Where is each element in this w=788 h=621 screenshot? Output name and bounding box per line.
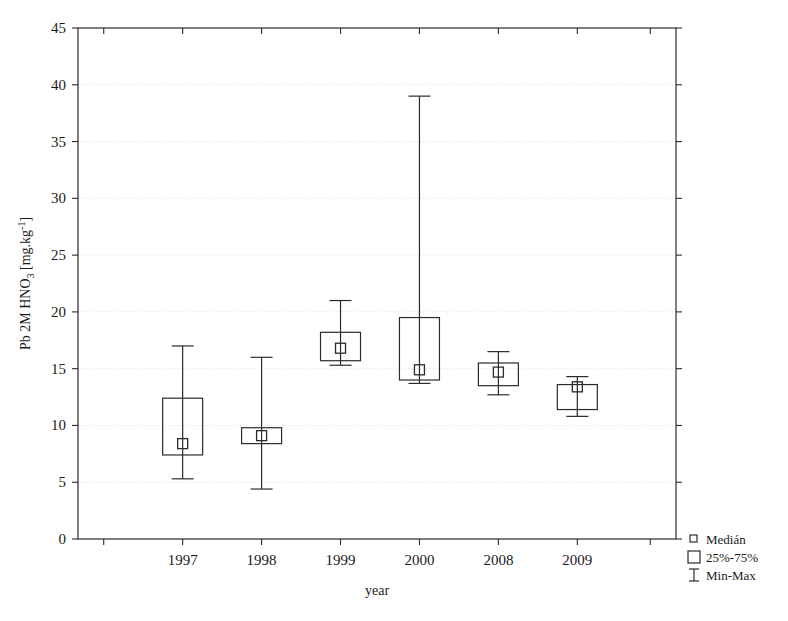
legend: Medián25%-75%Min-Max	[688, 532, 758, 583]
x-tick-label: 1997	[168, 552, 199, 568]
box-plot-1999	[321, 301, 361, 366]
median-glyph-icon	[690, 535, 697, 542]
box-plot-2000	[399, 96, 439, 383]
y-tick-label: 0	[59, 531, 67, 547]
y-gridlines: 051015202530354045	[51, 20, 682, 547]
x-axis: 199719981999200020082009	[104, 28, 651, 568]
y-tick-label: 20	[51, 304, 66, 320]
box-plot-1998	[242, 357, 282, 489]
legend-item-2: 25%-75%	[688, 550, 758, 565]
plot-frame	[78, 28, 676, 539]
x-tick-label: 1999	[326, 552, 356, 568]
y-axis-title: Pb 2M HNO3 [mg.kg-1]	[16, 217, 36, 350]
x-tick-label: 2000	[404, 552, 434, 568]
y-tick-label: 10	[51, 417, 66, 433]
y-tick-label: 30	[51, 190, 66, 206]
y-tick-label: 5	[59, 474, 67, 490]
legend-item-3: Min-Max	[689, 568, 756, 583]
x-tick-label: 2009	[562, 552, 592, 568]
y-tick-label: 35	[51, 134, 66, 150]
iqr-glyph-icon	[688, 551, 700, 563]
y-tick-label: 40	[51, 77, 66, 93]
y-tick-label: 45	[51, 20, 66, 36]
y-tick-label: 25	[51, 247, 66, 263]
legend-label: 25%-75%	[706, 550, 758, 565]
x-tick-label: 2008	[483, 552, 513, 568]
x-axis-title: year	[365, 583, 389, 598]
legend-label: Min-Max	[706, 568, 756, 583]
box-plot-1997	[163, 346, 203, 479]
legend-item-1: Medián	[690, 532, 746, 547]
box-plot-2009	[557, 377, 597, 417]
boxplot-chart: 0510152025303540451997199819992000200820…	[0, 0, 788, 621]
chart-canvas: 0510152025303540451997199819992000200820…	[0, 0, 788, 621]
legend-label: Medián	[706, 532, 746, 547]
y-tick-label: 15	[51, 361, 66, 377]
x-tick-label: 1998	[247, 552, 277, 568]
box-plot-2008	[478, 352, 518, 395]
